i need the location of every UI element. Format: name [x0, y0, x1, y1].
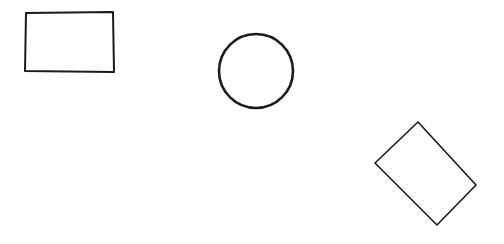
canvas-background [0, 0, 504, 244]
shapes-canvas [0, 0, 504, 244]
